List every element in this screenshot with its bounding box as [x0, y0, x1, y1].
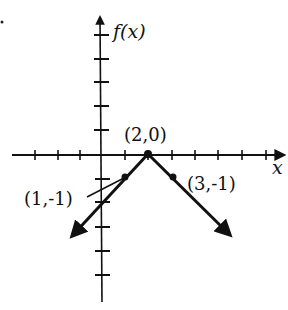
point-vertex — [144, 150, 152, 158]
point-3-neg1 — [170, 174, 177, 181]
scan-artifact-dot — [1, 21, 4, 24]
right-branch — [148, 154, 230, 235]
function-label: f(x) — [111, 20, 146, 42]
x-axis-label: x — [272, 156, 283, 178]
vertex-label: (2,0) — [124, 124, 167, 145]
left-branch — [72, 154, 148, 236]
function-graph: f(x) x (2,0) (1,-1) (3,-1) — [0, 0, 288, 310]
y-axis — [94, 17, 110, 302]
point-label-3-neg1: (3,-1) — [187, 173, 236, 194]
point-label-1-neg1: (1,-1) — [24, 188, 73, 209]
function-curve — [72, 154, 230, 236]
